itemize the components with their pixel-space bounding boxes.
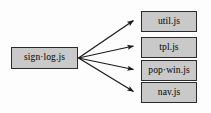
- graph-node-pop-win-js[interactable]: pop·win.js: [141, 60, 197, 81]
- graph-node-tpl-js[interactable]: tpl.js: [141, 37, 197, 58]
- graph-node-label: tpl.js: [159, 42, 178, 52]
- graph-node-label: sign·log.js: [24, 53, 65, 63]
- graph-node-label: nav.js: [158, 87, 180, 97]
- graph-node-sign-log-js[interactable]: sign·log.js: [11, 47, 78, 69]
- graph-node-label: pop·win.js: [148, 65, 189, 75]
- dependency-graph-diagram: sign·log.js util.js tpl.js pop·win.js na…: [0, 0, 211, 113]
- graph-node-nav-js[interactable]: nav.js: [141, 82, 197, 103]
- graph-node-label: util.js: [158, 16, 180, 26]
- edge-sign-log-to-nav: [79, 58, 134, 92]
- graph-node-util-js[interactable]: util.js: [141, 11, 197, 32]
